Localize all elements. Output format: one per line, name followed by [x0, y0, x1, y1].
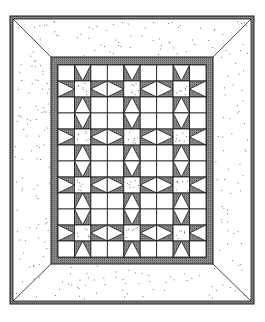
- speckle-dot: [222, 222, 223, 223]
- speckle-dot: [30, 120, 31, 121]
- speckle-dot: [27, 119, 28, 120]
- speckle-dot: [77, 287, 78, 288]
- speckle-dot: [109, 51, 110, 52]
- plain-cell: [58, 65, 74, 81]
- speckle-dot: [77, 179, 78, 180]
- speckle-dot: [17, 210, 18, 211]
- speckle-dot: [42, 89, 43, 90]
- speckle-dot: [209, 295, 210, 296]
- plain-cell: [58, 113, 74, 129]
- speckle-dot: [221, 57, 222, 58]
- plain-cell: [91, 65, 107, 81]
- speckle-dot: [17, 121, 18, 122]
- speckle-dot: [39, 147, 40, 148]
- speckle-dot: [27, 124, 28, 125]
- speckle-dot: [46, 218, 47, 219]
- speckle-dot: [235, 63, 236, 64]
- star-center: [173, 81, 189, 97]
- speckle-dot: [78, 85, 79, 86]
- speckle-dot: [92, 29, 93, 30]
- speckle-dot: [83, 89, 84, 90]
- speckle-dot: [87, 273, 88, 274]
- speckle-dot: [116, 272, 117, 273]
- speckle-dot: [95, 50, 96, 51]
- plain-cell: [140, 241, 156, 257]
- speckle-dot: [228, 169, 229, 170]
- speckle-dot: [161, 45, 162, 46]
- speckle-dot: [45, 112, 46, 113]
- plain-cell: [140, 161, 156, 177]
- speckle-dot: [80, 186, 81, 187]
- speckle-dot: [29, 267, 30, 268]
- plain-cell: [190, 113, 206, 129]
- speckle-dot: [16, 182, 17, 183]
- plain-cell: [140, 145, 156, 161]
- plain-cell: [91, 193, 107, 209]
- plain-cell: [157, 241, 173, 257]
- speckle-dot: [28, 92, 29, 93]
- speckle-dot: [160, 49, 161, 50]
- speckle-dot: [20, 259, 21, 260]
- plain-cell: [157, 209, 173, 225]
- speckle-dot: [38, 224, 39, 225]
- speckle-dot: [127, 183, 128, 184]
- speckle-dot: [78, 189, 79, 190]
- speckle-dot: [186, 136, 187, 137]
- speckle-dot: [170, 277, 171, 278]
- speckle-dot: [178, 27, 179, 28]
- speckle-dot: [86, 91, 87, 92]
- speckle-dot: [138, 185, 139, 186]
- speckle-dot: [106, 30, 107, 31]
- speckle-dot: [118, 45, 119, 46]
- speckle-dot: [44, 25, 45, 26]
- speckle-dot: [123, 279, 124, 280]
- speckle-dot: [214, 30, 215, 31]
- speckle-dot: [128, 270, 129, 271]
- speckle-dot: [226, 50, 227, 51]
- speckle-dot: [134, 140, 135, 141]
- speckle-dot: [176, 190, 177, 191]
- speckle-dot: [88, 38, 89, 39]
- speckle-dot: [159, 39, 160, 40]
- speckle-dot: [94, 280, 95, 281]
- speckle-dot: [96, 293, 97, 294]
- speckle-dot: [18, 28, 19, 29]
- speckle-dot: [20, 116, 21, 117]
- speckle-dot: [223, 208, 224, 209]
- speckle-dot: [32, 66, 33, 67]
- plain-cell: [107, 65, 123, 81]
- speckle-dot: [36, 296, 37, 297]
- speckle-dot: [43, 74, 44, 75]
- speckle-dot: [17, 231, 18, 232]
- speckle-dot: [45, 224, 46, 225]
- speckle-dot: [49, 183, 50, 184]
- speckle-dot: [192, 40, 193, 41]
- plain-cell: [91, 161, 107, 177]
- speckle-dot: [78, 134, 79, 135]
- speckle-dot: [247, 53, 248, 54]
- speckle-dot: [133, 187, 134, 188]
- speckle-dot: [225, 95, 226, 96]
- speckle-dot: [136, 228, 137, 229]
- star-center: [74, 129, 90, 145]
- speckle-dot: [241, 243, 242, 244]
- speckle-dot: [169, 42, 170, 43]
- speckle-dot: [133, 229, 134, 230]
- speckle-dot: [35, 66, 36, 67]
- speckle-dot: [134, 138, 135, 139]
- speckle-dot: [33, 189, 34, 190]
- speckle-dot: [34, 61, 35, 62]
- speckle-dot: [21, 80, 22, 81]
- plain-cell: [91, 209, 107, 225]
- speckle-dot: [242, 90, 243, 91]
- speckle-dot: [71, 267, 72, 268]
- speckle-dot: [227, 213, 228, 214]
- speckle-dot: [227, 221, 228, 222]
- speckle-dot: [172, 22, 173, 23]
- speckle-dot: [77, 181, 78, 182]
- speckle-dot: [79, 288, 80, 289]
- speckle-dot: [133, 85, 134, 86]
- speckle-dot: [244, 22, 245, 23]
- speckle-dot: [243, 70, 244, 71]
- speckle-dot: [62, 282, 63, 283]
